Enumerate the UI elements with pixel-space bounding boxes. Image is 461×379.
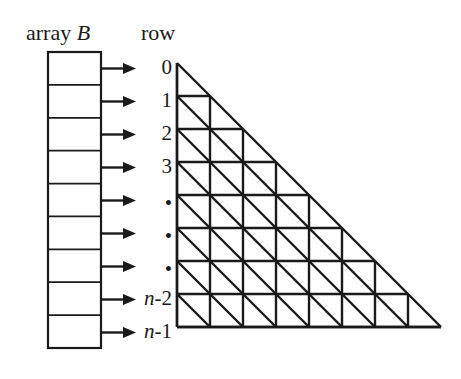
figure-canvas: array B row 0123•••n-2n-1 <box>0 0 461 379</box>
row-index-offset: -2 <box>155 286 173 310</box>
triangular-mesh-group <box>177 63 441 327</box>
row-index-label: • <box>165 193 172 214</box>
row-index-variable: n <box>144 319 155 343</box>
pointer-arrow-head <box>123 261 136 272</box>
pointer-arrow-head <box>123 294 136 305</box>
row-index-variable: n <box>144 286 155 310</box>
mesh-diagonal-line <box>177 162 342 327</box>
row-index-label: 1 <box>162 90 173 111</box>
pointer-arrow-head <box>123 162 136 173</box>
row-index-label: n-2 <box>144 288 172 309</box>
array-box-group <box>48 52 101 348</box>
pointer-arrow-head <box>123 63 136 74</box>
diagram-vector-layer <box>0 0 461 379</box>
pointer-arrow-head <box>123 195 136 206</box>
row-index-label: • <box>165 259 172 280</box>
pointer-arrow-head <box>123 129 136 140</box>
pointer-arrow-head <box>123 228 136 239</box>
pointer-arrow-head <box>123 327 136 338</box>
row-index-label: 0 <box>162 57 173 78</box>
row-index-label: 2 <box>162 123 173 144</box>
row-index-label: • <box>165 226 172 247</box>
pointer-arrow-head <box>123 96 136 107</box>
mesh-diagonal-line <box>177 96 408 327</box>
row-index-label: n-1 <box>144 321 172 342</box>
row-index-offset: -1 <box>155 319 173 343</box>
mesh-diagonal-line <box>177 294 210 327</box>
pointer-arrow-group <box>101 63 136 338</box>
row-index-label: 3 <box>162 156 173 177</box>
array-box-outline <box>48 52 101 348</box>
